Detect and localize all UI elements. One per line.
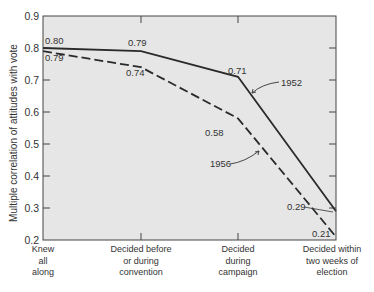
data-label-1952: 0.29: [287, 201, 306, 212]
y-axis-tick-labels: 0.20.30.40.50.60.70.80.9: [24, 10, 39, 246]
x-axis-category-labels: KnewallalongDecided beforeor duringconve…: [32, 244, 362, 277]
series-name-1956: 1956: [210, 158, 231, 169]
x-category-label: all: [38, 256, 47, 266]
data-label-1956: 0.79: [45, 52, 64, 63]
y-tick-label: 0.5: [24, 138, 39, 150]
y-tick-label: 0.4: [24, 170, 39, 182]
y-axis-title: Multiple correlation of attitudes with v…: [8, 44, 19, 222]
data-label-1956: 0.21: [312, 228, 331, 239]
x-category-label: campaign: [218, 267, 257, 277]
data-label-1952: 0.80: [45, 35, 64, 46]
data-label-1956: 0.74: [126, 67, 145, 78]
x-category-label: Decided: [221, 244, 254, 254]
y-tick-label: 0.8: [24, 42, 39, 54]
y-tick-label: 0.7: [24, 74, 39, 86]
y-tick-label: 0.3: [24, 202, 39, 214]
x-category-label: convention: [119, 267, 163, 277]
x-category-label: two weeks of: [306, 256, 359, 266]
x-category-label: or during: [123, 256, 159, 266]
data-label-1956: 0.58: [205, 127, 224, 138]
x-category-label: Decided within: [303, 244, 362, 254]
data-label-1952: 0.71: [228, 65, 247, 76]
x-category-label: along: [32, 267, 54, 277]
x-category-label: election: [316, 267, 347, 277]
series-name-1952: 1952: [281, 77, 302, 88]
y-tick-label: 0.9: [24, 10, 39, 22]
y-tick-label: 0.6: [24, 106, 39, 118]
x-category-label: Decided before: [110, 244, 171, 254]
x-category-label: Knew: [32, 244, 55, 254]
data-label-1952: 0.79: [128, 37, 147, 48]
line-chart: 0.20.30.40.50.60.70.80.9 0.800.790.710.2…: [0, 0, 374, 292]
x-category-label: during: [225, 256, 250, 266]
